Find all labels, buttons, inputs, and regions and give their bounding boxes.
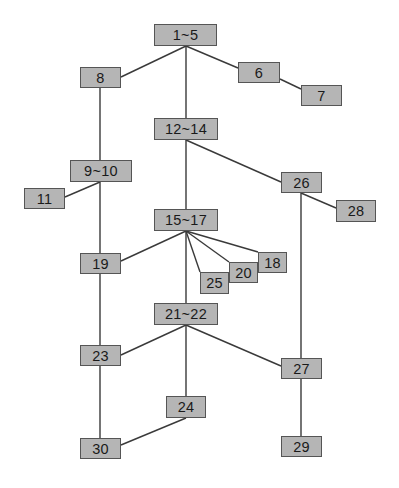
node-n27: 27	[281, 358, 322, 379]
edge-1~5-to-8	[121, 46, 186, 77]
node-n28: 28	[336, 200, 376, 222]
node-label: 24	[178, 399, 195, 415]
node-n11: 11	[24, 188, 65, 209]
node-label: 28	[348, 203, 365, 219]
node-label: 9~10	[84, 163, 118, 179]
edge-21~22-to-23	[121, 325, 186, 355]
node-label: 7	[317, 88, 325, 104]
node-n7: 7	[301, 85, 342, 106]
node-n23: 23	[80, 345, 121, 366]
node-label: 26	[293, 175, 310, 191]
node-n25: 25	[200, 272, 229, 294]
node-n15_17: 15~17	[154, 209, 218, 231]
edge-6-to-7	[280, 79, 301, 89]
node-label: 18	[264, 255, 281, 271]
node-label: 23	[92, 348, 109, 364]
node-label: 12~14	[165, 121, 207, 137]
node-n29: 29	[281, 436, 322, 457]
node-label: 29	[293, 439, 310, 455]
edge-15~17-to-20	[186, 231, 229, 262]
node-label: 8	[96, 70, 104, 86]
edge-9~10-to-11	[65, 182, 100, 197]
node-label: 27	[293, 361, 310, 377]
edge-1~5-to-6	[186, 46, 238, 68]
edge-15~17-to-18	[186, 231, 258, 252]
node-n9_10: 9~10	[70, 160, 132, 182]
node-n21_22: 21~22	[154, 303, 218, 325]
tree-diagram: 1~586712~149~1011262815~171918202521~222…	[0, 0, 399, 488]
edge-24-to-30	[121, 418, 186, 445]
node-n24: 24	[166, 396, 206, 418]
node-n1_5: 1~5	[154, 24, 217, 46]
node-n6: 6	[238, 62, 280, 83]
node-label: 30	[92, 441, 109, 457]
node-label: 6	[255, 65, 263, 81]
node-label: 1~5	[173, 27, 199, 43]
node-n8: 8	[80, 67, 121, 88]
edge-15~17-to-25	[186, 231, 200, 272]
node-label: 20	[235, 265, 252, 281]
node-n19: 19	[80, 253, 121, 274]
node-n30: 30	[80, 438, 121, 459]
node-n26: 26	[281, 172, 322, 193]
edge-21~22-to-27	[186, 325, 281, 366]
node-label: 25	[206, 275, 223, 291]
node-label: 19	[92, 256, 109, 272]
node-n20: 20	[229, 262, 258, 283]
node-label: 11	[37, 191, 53, 207]
node-label: 21~22	[165, 306, 207, 322]
node-label: 15~17	[165, 212, 207, 228]
edge-12~14-to-26	[186, 140, 281, 182]
node-n12_14: 12~14	[154, 118, 218, 140]
node-n18: 18	[258, 252, 287, 273]
edge-15~17-to-19	[121, 231, 186, 261]
edge-26-to-28	[301, 193, 336, 208]
